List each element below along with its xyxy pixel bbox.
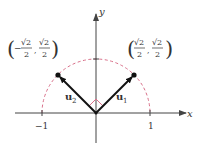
x-axis-label: x bbox=[187, 108, 193, 119]
svg-text:2: 2 bbox=[24, 50, 29, 59]
point-u1-tip bbox=[131, 72, 136, 77]
vector-u1 bbox=[96, 77, 132, 113]
x-tick-label-neg1: −1 bbox=[35, 121, 48, 131]
svg-text:2: 2 bbox=[42, 50, 47, 59]
svg-text:2: 2 bbox=[137, 50, 142, 59]
svg-text:,: , bbox=[34, 46, 37, 55]
svg-text:): ) bbox=[51, 37, 59, 61]
coord-label-left: ( − √2 2 , √2 2 ) bbox=[7, 37, 59, 61]
svg-text:√2: √2 bbox=[134, 38, 144, 47]
y-axis-label: y bbox=[98, 6, 105, 17]
svg-text:): ) bbox=[165, 37, 173, 61]
point-u2-tip bbox=[55, 72, 60, 77]
coord-label-right: ( √2 2 , √2 2 ) bbox=[127, 37, 173, 61]
svg-text:1: 1 bbox=[123, 97, 127, 105]
svg-text:√2: √2 bbox=[21, 38, 31, 47]
svg-text:√2: √2 bbox=[39, 38, 49, 47]
svg-text:2: 2 bbox=[72, 97, 76, 105]
unit-vectors-diagram: y x −1 1 u 2 u 1 ( − √2 2 , √2 2 ) ( √2 … bbox=[0, 0, 201, 152]
svg-text:2: 2 bbox=[155, 50, 160, 59]
svg-text:√2: √2 bbox=[152, 38, 162, 47]
x-tick-label-1: 1 bbox=[148, 121, 154, 131]
label-u1: u 1 bbox=[116, 91, 127, 105]
origin-point bbox=[95, 112, 98, 115]
svg-text:,: , bbox=[147, 46, 150, 55]
